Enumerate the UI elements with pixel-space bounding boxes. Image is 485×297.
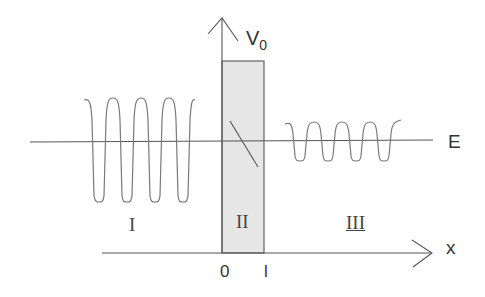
origin-label: 0 (220, 263, 229, 280)
potential-symbol: V (246, 27, 259, 49)
barrier-width-label: l (264, 263, 268, 280)
potential-label: V0 (246, 28, 267, 52)
energy-axis-arrowhead (208, 18, 238, 41)
energy-label: E (448, 132, 461, 151)
incident-wave (84, 98, 195, 202)
region-i-label: I (129, 215, 135, 234)
potential-subscript: 0 (259, 37, 267, 53)
region-iii-label: III (346, 213, 365, 232)
tunneling-diagram (0, 0, 485, 297)
region-ii-label: II (236, 212, 249, 231)
x-axis-label: x (446, 238, 456, 257)
